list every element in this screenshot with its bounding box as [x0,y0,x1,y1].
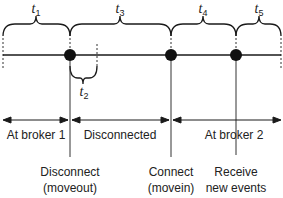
event-dot-receive [230,49,242,61]
event-dot-disconnect [64,49,76,61]
event-label-connect-line1: Connect [148,164,195,180]
event-label-disconnect-line2: (moveout) [40,180,99,196]
event-label-connect-line2: (movein) [148,180,195,196]
event-label-receive: Receive new events [206,164,267,196]
event-label-receive-line1: Receive [206,164,267,180]
interval-label-t1: t1 [32,2,41,20]
event-label-receive-line2: new events [206,180,267,196]
phase-label-disconnected: Disconnected [84,128,157,142]
event-label-disconnect: Disconnect (moveout) [40,164,99,196]
phase-label-broker2: At broker 2 [205,128,264,142]
interval-label-t4: t4 [199,2,208,20]
event-label-connect: Connect (movein) [148,164,195,196]
interval-label-t3: t3 [116,2,125,20]
phase-label-broker1: At broker 1 [7,128,66,142]
interval-label-t5: t5 [255,2,264,20]
event-dot-connect [165,49,177,61]
brace-t2 [70,66,97,84]
interval-label-t2: t2 [80,85,89,103]
event-label-disconnect-line1: Disconnect [40,164,99,180]
